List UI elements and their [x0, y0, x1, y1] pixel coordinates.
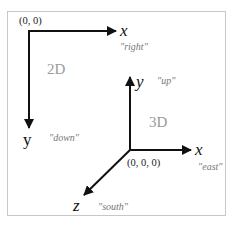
- two-d-y-direction-label: "down": [49, 132, 80, 143]
- three-d-dimension-label: 3D: [149, 114, 168, 130]
- two-d-x-direction-label: "right": [120, 41, 149, 52]
- three-d-x-axis-label: x: [194, 140, 203, 159]
- diagram-frame: [8, 12, 226, 216]
- two-d-dimension-label: 2D: [47, 61, 66, 77]
- two-d-y-axis-label: y: [23, 130, 32, 149]
- coordinate-systems-diagram: (0, 0) x "right" 2D y "down" y "up" 3D x…: [0, 0, 234, 226]
- three-d-y-direction-label: "up": [157, 75, 176, 86]
- three-d-z-direction-label: "south": [98, 201, 129, 212]
- three-d-z-axis-label: z: [72, 196, 80, 215]
- three-d-origin-label: (0, 0, 0): [127, 157, 161, 169]
- two-d-origin-label: (0, 0): [19, 15, 42, 27]
- three-d-y-axis-label: y: [134, 72, 144, 91]
- two-d-x-axis-label: x: [119, 21, 128, 40]
- three-d-x-direction-label: "east": [198, 161, 223, 172]
